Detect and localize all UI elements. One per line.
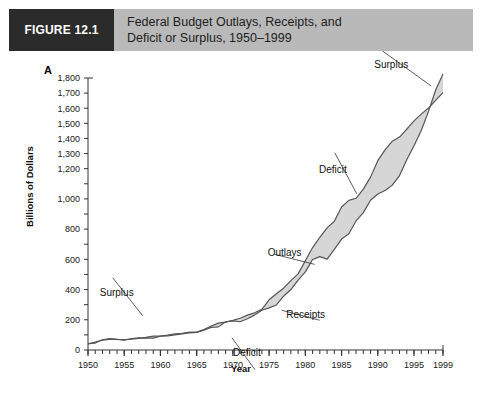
y-tick-label: 1,700 [57,88,80,98]
annotation-receipts-2: Receipts [286,309,325,320]
x-tick-label: 1985 [332,360,352,370]
x-tick-label: 1950 [78,360,98,370]
y-tick-label: 400 [65,285,80,295]
annotation-deficit-1: Deficit [233,347,261,358]
y-tick-label: 200 [65,315,80,325]
x-tick-label: 1995 [404,360,424,370]
plot-area: 02004006008001,0001,2001,3001,4001,5001,… [9,51,473,386]
annotation-deficit-4: Deficit [319,164,347,175]
y-tick-label: 0 [75,345,80,355]
annotation-surplus-0: Surplus [100,287,134,298]
x-tick-label: 1990 [368,360,388,370]
y-tick-label: 1,300 [57,149,80,159]
annotation-surplus-5: Surplus [374,59,408,70]
x-tick-label: 1965 [187,360,207,370]
chart-panel: A Billions of Dollars Year 0200400600800… [9,51,473,386]
y-tick-label: 600 [65,255,80,265]
figure-title-line-1: Federal Budget Outlays, Receipts, and [127,14,473,30]
x-tick-label: 1970 [223,360,243,370]
figure-number-label: FIGURE 12.1 [24,23,98,37]
x-tick-label: 1975 [259,360,279,370]
x-tick-label: 1955 [114,360,134,370]
figure-number-box: FIGURE 12.1 [9,9,114,51]
budget-area-chart: 02004006008001,0001,2001,3001,4001,5001,… [9,51,473,386]
x-tick-label: 1980 [295,360,315,370]
receipts-line [88,74,443,344]
y-tick-label: 800 [65,224,80,234]
figure-header: FIGURE 12.1 Federal Budget Outlays, Rece… [9,9,473,51]
y-tick-label: 1,600 [57,104,80,114]
figure-title-box: Federal Budget Outlays, Receipts, and De… [114,9,473,51]
y-tick-label: 1,200 [57,164,80,174]
figure-title-line-2: Deficit or Surplus, 1950–1999 [127,30,473,46]
y-tick-label: 1,000 [57,194,80,204]
deficit-surplus-band [88,74,443,344]
y-tick-label: 1,500 [57,119,80,129]
y-tick-label: 1,800 [57,73,80,83]
x-tick-label: 1999 [433,360,453,370]
figure-root: FIGURE 12.1 Federal Budget Outlays, Rece… [0,0,482,395]
y-tick-label: 1,400 [57,134,80,144]
annotation-outlays-3: Outlays [268,247,302,258]
x-tick-label: 1960 [150,360,170,370]
